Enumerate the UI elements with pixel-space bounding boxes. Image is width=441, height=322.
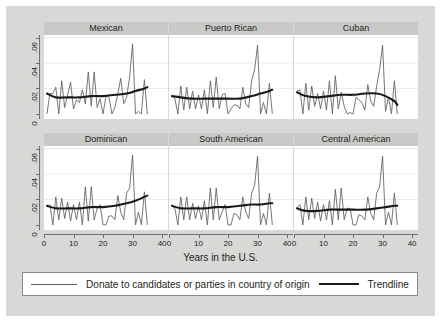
x-axis-line — [169, 234, 293, 235]
x-tick-mark — [294, 235, 295, 238]
x-tick-label: 30 — [375, 239, 391, 248]
panel-title: Mexican — [44, 22, 168, 35]
x-tick-mark — [383, 235, 384, 238]
y-axis-line — [39, 35, 40, 119]
series-line — [172, 156, 272, 225]
x-tick-label: 20 — [220, 239, 236, 248]
x-tick-label: 10 — [191, 239, 207, 248]
plot-area — [44, 146, 168, 230]
plot-area — [44, 35, 168, 119]
panel-title: Puerto Rican — [169, 22, 293, 35]
plot-area — [294, 35, 418, 119]
panel-central-american: Central American — [294, 133, 418, 230]
x-tick-mark — [353, 235, 354, 238]
x-axis-line — [44, 234, 168, 235]
y-tick-label: .02 — [30, 88, 39, 108]
x-tick-label: 20 — [345, 239, 361, 248]
legend-trend-swatch-icon — [319, 283, 359, 285]
y-tick-label: .06 — [30, 148, 39, 168]
x-tick-mark — [103, 235, 104, 238]
y-tick-label: 0 — [30, 113, 39, 133]
x-tick-mark — [199, 235, 200, 238]
series-line — [47, 155, 147, 225]
chart-legend: Donate to candidates or parties in count… — [22, 272, 418, 296]
panel-cuban: Cuban — [294, 22, 418, 119]
panel-title: Central American — [294, 133, 418, 146]
x-tick-mark — [228, 235, 229, 238]
y-axis-line — [39, 146, 40, 230]
x-tick-label: 30 — [250, 239, 266, 248]
panel-puerto-rican: Puerto Rican — [169, 22, 293, 119]
panel-title: South American — [169, 133, 293, 146]
x-axis-title: Years in the U.S. — [6, 252, 435, 263]
x-tick-label: 10 — [316, 239, 332, 248]
legend-series-label: Donate to candidates or parties in count… — [86, 279, 309, 290]
x-tick-mark — [324, 235, 325, 238]
x-tick-mark — [74, 235, 75, 238]
x-tick-mark — [169, 235, 170, 238]
x-tick-mark — [162, 235, 163, 238]
y-tick-label: .06 — [30, 37, 39, 57]
series-line — [297, 156, 397, 225]
panel-title: Cuban — [294, 22, 418, 35]
x-tick-mark — [44, 235, 45, 238]
y-tick-label: .02 — [30, 199, 39, 219]
x-tick-mark — [412, 235, 413, 238]
y-tick-label: .04 — [30, 63, 39, 83]
x-tick-label: 10 — [66, 239, 82, 248]
x-tick-mark — [287, 235, 288, 238]
series-line — [297, 45, 397, 114]
legend-series-swatch-icon — [31, 284, 77, 285]
x-tick-mark — [258, 235, 259, 238]
panel-south-american: South American — [169, 133, 293, 230]
x-tick-label: 20 — [95, 239, 111, 248]
x-tick-label: 0 — [36, 239, 52, 248]
x-tick-label: 30 — [125, 239, 141, 248]
y-tick-label: .04 — [30, 174, 39, 194]
x-tick-label: 40 — [404, 239, 420, 248]
figure-canvas: MexicanPuerto RicanCubanDominicanSouth A… — [6, 6, 435, 316]
trendline — [172, 203, 272, 208]
x-axis-line — [294, 234, 418, 235]
x-tick-mark — [133, 235, 134, 238]
x-tick-label: 0 — [286, 239, 302, 248]
trendline — [297, 92, 397, 105]
x-tick-label: 0 — [161, 239, 177, 248]
panel-dominican: Dominican — [44, 133, 168, 230]
plot-area — [294, 146, 418, 230]
legend-trend-label: Trendline — [368, 279, 409, 290]
panel-mexican: Mexican — [44, 22, 168, 119]
series-line — [172, 45, 272, 114]
panel-title: Dominican — [44, 133, 168, 146]
series-line — [47, 44, 147, 114]
plot-area — [169, 35, 293, 119]
plot-area — [169, 146, 293, 230]
